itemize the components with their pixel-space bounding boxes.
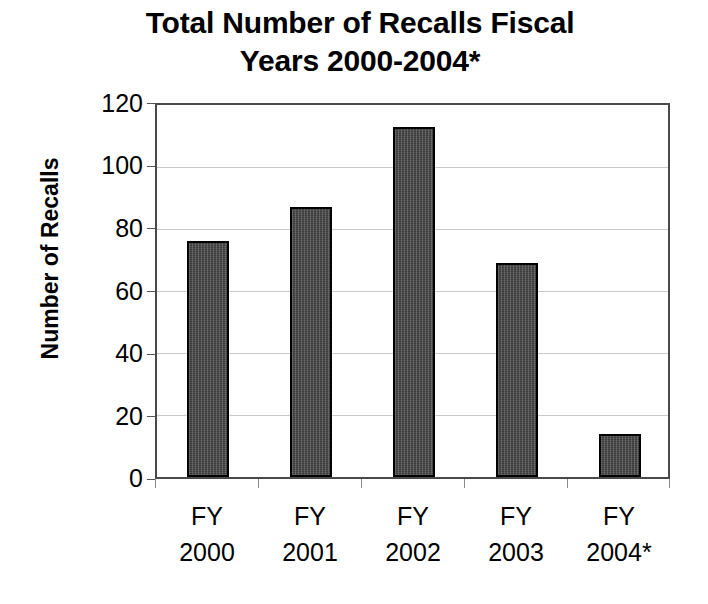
chart-title: Total Number of Recalls Fiscal Years 200… — [60, 4, 660, 80]
y-tick-label-40: 40 — [63, 341, 143, 366]
x-tick-label-fy-2003-line-2: 2003 — [464, 534, 568, 570]
chart-page: Total Number of Recalls Fiscal Years 200… — [0, 0, 708, 604]
y-axis-tick-labels: 120 100 80 60 40 20 0 — [55, 0, 143, 604]
bar-fy-2002[interactable] — [393, 127, 435, 477]
x-tick-label-fy-2001-line-1: FY — [258, 498, 362, 534]
x-tick-label-fy-2004: FY 2004* — [567, 498, 671, 570]
x-tick-label-fy-2004-line-1: FY — [567, 498, 671, 534]
x-tick-label-fy-2002-line-1: FY — [361, 498, 465, 534]
x-tick-label-fy-2003-line-1: FY — [464, 498, 568, 534]
x-tick-mark-4 — [567, 479, 568, 488]
chart-title-line-2: Years 2000-2004* — [60, 42, 660, 80]
y-tick-label-120: 120 — [63, 91, 143, 116]
bar-fy-2000[interactable] — [187, 241, 229, 477]
bar-fy-2004[interactable] — [599, 434, 641, 477]
x-tick-mark-3 — [464, 479, 465, 488]
y-tick-label-0: 0 — [63, 466, 143, 491]
x-tick-mark-0 — [155, 479, 156, 488]
x-tick-label-fy-2000: FY 2000 — [155, 498, 259, 570]
x-tick-label-fy-2001-line-2: 2001 — [258, 534, 362, 570]
y-tick-label-20: 20 — [63, 404, 143, 429]
x-tick-label-fy-2001: FY 2001 — [258, 498, 362, 570]
bar-fy-2003[interactable] — [496, 263, 538, 477]
bar-fy-2001[interactable] — [290, 207, 332, 477]
x-tick-label-fy-2002: FY 2002 — [361, 498, 465, 570]
plot-area — [155, 103, 670, 479]
x-tick-label-fy-2004-line-2: 2004* — [567, 534, 671, 570]
y-tick-label-100: 100 — [63, 153, 143, 178]
x-tick-label-fy-2003: FY 2003 — [464, 498, 568, 570]
chart-title-line-1: Total Number of Recalls Fiscal — [60, 4, 660, 42]
y-tick-label-60: 60 — [63, 279, 143, 304]
y-tick-label-80: 80 — [63, 216, 143, 241]
x-tick-mark-5 — [669, 479, 670, 488]
x-tick-mark-2 — [361, 479, 362, 488]
x-tick-label-fy-2002-line-2: 2002 — [361, 534, 465, 570]
x-tick-mark-1 — [258, 479, 259, 488]
x-tick-label-fy-2000-line-1: FY — [155, 498, 259, 534]
x-tick-label-fy-2000-line-2: 2000 — [155, 534, 259, 570]
